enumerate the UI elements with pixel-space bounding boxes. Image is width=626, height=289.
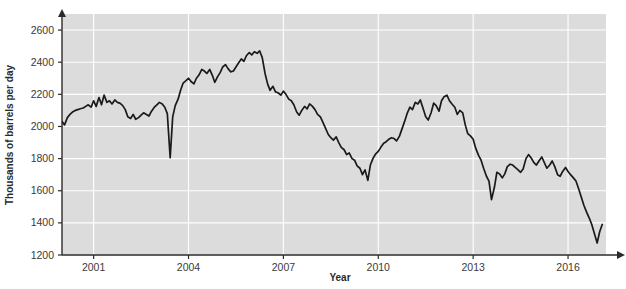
y-axis-title: Thousands of barrels per day <box>4 65 15 205</box>
chart-figure: 12001400160018002000220024002600 2001200… <box>0 0 626 289</box>
y-tick-label: 2200 <box>31 88 55 100</box>
y-tick-label: 1600 <box>31 184 55 196</box>
y-tick-label: 2600 <box>31 24 55 36</box>
y-tick-label: 1800 <box>31 152 55 164</box>
plot-background <box>62 14 606 255</box>
x-axis: 200120042007201020132016 <box>62 255 618 273</box>
x-tick-label: 2007 <box>272 261 296 273</box>
x-tick-label: 2016 <box>556 261 580 273</box>
x-tick-label: 2004 <box>177 261 201 273</box>
y-tick-label: 2000 <box>31 120 55 132</box>
x-axis-title: Year <box>329 272 350 283</box>
x-tick-label: 2013 <box>461 261 485 273</box>
y-tick-label: 1400 <box>31 216 55 228</box>
x-tick-label: 2001 <box>82 261 106 273</box>
x-tick-label: 2010 <box>367 261 391 273</box>
y-axis: 12001400160018002000220024002600 <box>31 16 62 261</box>
y-tick-label: 1200 <box>31 249 55 261</box>
x-axis-ticks: 200120042007201020132016 <box>82 255 580 273</box>
line-chart: 12001400160018002000220024002600 2001200… <box>0 0 626 289</box>
y-axis-ticks: 12001400160018002000220024002600 <box>31 24 62 261</box>
y-tick-label: 2400 <box>31 56 55 68</box>
